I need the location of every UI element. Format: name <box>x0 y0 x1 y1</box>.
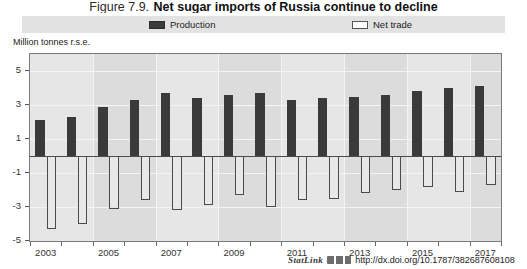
bar-net-trade-2016 <box>455 156 464 192</box>
bar-net-trade-2017 <box>486 156 495 185</box>
y-axis-label: 5 <box>0 65 21 74</box>
bar-production-2005 <box>98 107 107 156</box>
bar-production-2011 <box>287 100 296 156</box>
bar-net-trade-2014 <box>392 156 401 190</box>
x-axis-tick <box>61 242 62 246</box>
figure-title-text: Net sugar imports of Russia continue to … <box>154 0 438 13</box>
legend-swatch-production-icon <box>149 21 165 29</box>
gridline-vertical <box>344 54 345 241</box>
x-axis-label-2005: 2005 <box>89 247 129 258</box>
gridline-vertical <box>470 54 471 241</box>
bar-net-trade-2013 <box>361 156 370 193</box>
legend-label-net-trade: Net trade <box>373 19 412 30</box>
bar-production-2017 <box>475 86 484 156</box>
x-axis-label-2009: 2009 <box>214 247 254 258</box>
bar-production-2014 <box>381 95 390 156</box>
x-axis-tick <box>124 242 125 246</box>
bar-net-trade-2006 <box>141 156 150 200</box>
statlink-footer[interactable]: StatLink http://dx.doi.org/10.1787/38268… <box>288 255 515 265</box>
chart-legend: Production Net trade <box>22 16 505 33</box>
x-axis-tick <box>30 242 31 246</box>
statlink-url[interactable]: http://dx.doi.org/10.1787/382687608108 <box>355 255 515 265</box>
y-axis-unit-label: Million tonnes r.s.e. <box>13 37 90 47</box>
bar-net-trade-2012 <box>329 156 338 199</box>
bar-net-trade-2015 <box>423 156 432 187</box>
x-axis-tick <box>218 242 219 246</box>
x-axis-tick <box>187 242 188 246</box>
gridline-vertical <box>156 54 157 241</box>
figure-sugar-russia: Figure 7.9. Net sugar imports of Russia … <box>0 0 527 269</box>
legend-swatch-net-trade-icon <box>352 21 368 29</box>
gridline-vertical <box>93 54 94 241</box>
gridline-horizontal <box>30 207 501 208</box>
x-axis-label-2007: 2007 <box>151 247 191 258</box>
bar-production-2013 <box>349 97 358 157</box>
figure-title: Figure 7.9. Net sugar imports of Russia … <box>0 0 527 13</box>
y-axis-label: 3 <box>0 99 21 108</box>
bar-net-trade-2008 <box>204 156 213 205</box>
bar-production-2004 <box>67 117 76 156</box>
x-axis-tick <box>470 242 471 246</box>
x-axis-label-2003: 2003 <box>26 247 66 258</box>
gridline-vertical <box>281 54 282 241</box>
gridline-horizontal <box>30 241 501 242</box>
bar-production-2012 <box>318 98 327 156</box>
bar-net-trade-2010 <box>266 156 275 207</box>
bar-net-trade-2009 <box>235 156 244 195</box>
y-axis-label: -5 <box>0 235 21 244</box>
figure-number: Figure 7.9. <box>89 0 149 13</box>
legend-item-net-trade[interactable]: Net trade <box>352 19 412 30</box>
bar-net-trade-2003 <box>47 156 56 229</box>
y-axis-label: -3 <box>0 201 21 210</box>
x-axis-tick <box>375 242 376 246</box>
bar-production-2016 <box>444 88 453 156</box>
gridline-vertical <box>407 54 408 241</box>
x-axis-tick <box>438 242 439 246</box>
bar-net-trade-2004 <box>78 156 87 224</box>
gridline-horizontal <box>30 71 501 72</box>
bar-production-2003 <box>35 120 44 156</box>
x-axis-tick <box>313 242 314 246</box>
bar-net-trade-2005 <box>109 156 118 209</box>
bar-production-2015 <box>412 91 421 156</box>
x-axis-tick <box>407 242 408 246</box>
barcode-icon <box>327 256 351 264</box>
x-axis-tick <box>501 242 502 246</box>
x-axis-tick <box>344 242 345 246</box>
bar-production-2010 <box>255 93 264 156</box>
bar-production-2006 <box>130 100 139 156</box>
x-axis-tick <box>281 242 282 246</box>
bar-production-2007 <box>161 93 170 156</box>
y-axis-label: -1 <box>0 167 21 176</box>
legend-item-production[interactable]: Production <box>149 19 215 30</box>
y-axis-label: 1 <box>0 133 21 142</box>
bar-net-trade-2011 <box>298 156 307 200</box>
statlink-label: StatLink <box>288 255 323 265</box>
x-axis-tick <box>156 242 157 246</box>
gridline-vertical <box>218 54 219 241</box>
bar-production-2008 <box>192 98 201 156</box>
x-axis-tick <box>93 242 94 246</box>
bar-net-trade-2007 <box>172 156 181 210</box>
bar-production-2009 <box>224 95 233 156</box>
plot-area <box>29 53 502 242</box>
legend-label-production: Production <box>170 19 215 30</box>
x-axis-tick <box>250 242 251 246</box>
